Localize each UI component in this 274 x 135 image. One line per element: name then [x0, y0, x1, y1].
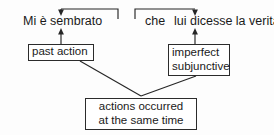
box-imperfect-line-2: subjunctive [172, 60, 230, 74]
grammar-diagram-canvas: Mi è sembrato che lui dicesse la verità.… [0, 0, 274, 135]
arrow-past-action-head [58, 28, 64, 35]
bracket-main-clause [61, 9, 118, 19]
arrow-imperfect-head [192, 28, 198, 35]
box-same-time-line-1: actions occurred [99, 100, 183, 114]
box-past-action-label: past action [32, 45, 88, 59]
box-past-action: past action [28, 44, 94, 61]
box-imperfect-subjunctive: imperfect subjunctive [168, 44, 230, 76]
diagonal-right-to-sametime [141, 76, 196, 96]
bracket-subordinate [135, 9, 195, 19]
box-same-time-line-2: at the same time [98, 114, 183, 128]
diagonal-left-to-sametime [80, 61, 141, 96]
box-imperfect-line-1: imperfect [172, 46, 219, 60]
bracket-subordinate-arrowhead [192, 10, 198, 17]
box-same-time: actions occurred at the same time [85, 98, 197, 130]
